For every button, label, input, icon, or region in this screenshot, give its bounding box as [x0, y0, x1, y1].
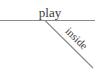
- modifier-word: inside: [63, 25, 90, 52]
- verb-word: play: [39, 5, 62, 20]
- sentence-diagram: play inside: [0, 0, 112, 73]
